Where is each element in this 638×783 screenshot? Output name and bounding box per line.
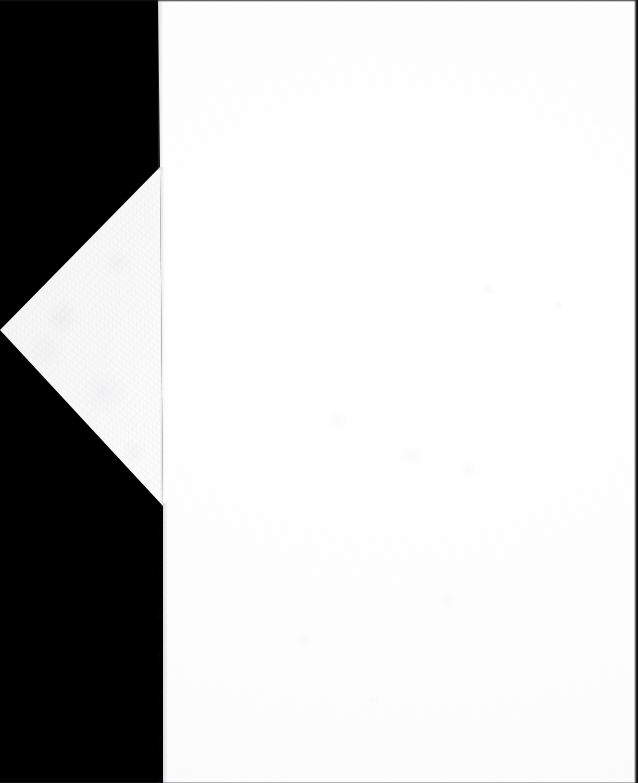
scanned-page-canvas: Scanned page Blank scanned sheet with a …	[0, 0, 638, 783]
fold-crease-line	[159, 167, 165, 507]
scan-border-right	[634, 0, 638, 783]
scan-border-top	[0, 0, 638, 2]
page-left-edge-shadow-upper	[158, 0, 163, 170]
page-left-edge-shadow-lower	[163, 503, 168, 783]
